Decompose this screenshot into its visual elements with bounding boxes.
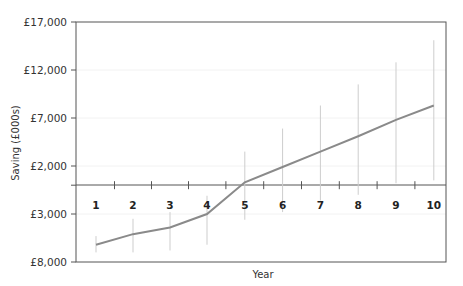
y-tick-label: £17,000	[24, 16, 67, 28]
x-axis-category-labels: 12345678910	[92, 199, 441, 211]
y-tick-label: £2,000	[30, 160, 67, 172]
x-category-label: 5	[241, 199, 248, 211]
x-category-label: 1	[92, 199, 99, 211]
gridlines	[76, 70, 446, 214]
x-category-label: 8	[355, 199, 362, 211]
x-category-label: 3	[166, 199, 173, 211]
y-tick-label: £3,000	[30, 208, 67, 220]
x-category-label: 7	[317, 199, 324, 211]
y-axis-ticks: £17,000£12,000£7,000£2,000£3,000£8,000	[24, 16, 76, 268]
x-category-label: 4	[203, 199, 210, 211]
y-tick-label: £7,000	[30, 112, 67, 124]
saving-series-line	[96, 106, 434, 245]
savings-line-chart: £17,000£12,000£7,000£2,000£3,000£8,000 1…	[0, 0, 463, 286]
x-category-label: 2	[129, 199, 136, 211]
y-axis-title: Saving (£000s)	[10, 105, 21, 181]
plot-frame	[76, 22, 446, 262]
x-category-label: 10	[426, 199, 441, 211]
x-category-label: 6	[279, 199, 286, 211]
error-bars	[96, 40, 434, 252]
x-axis-title: Year	[251, 269, 274, 280]
x-category-label: 9	[392, 199, 399, 211]
y-tick-label: £12,000	[24, 64, 67, 76]
y-tick-label: £8,000	[30, 256, 67, 268]
